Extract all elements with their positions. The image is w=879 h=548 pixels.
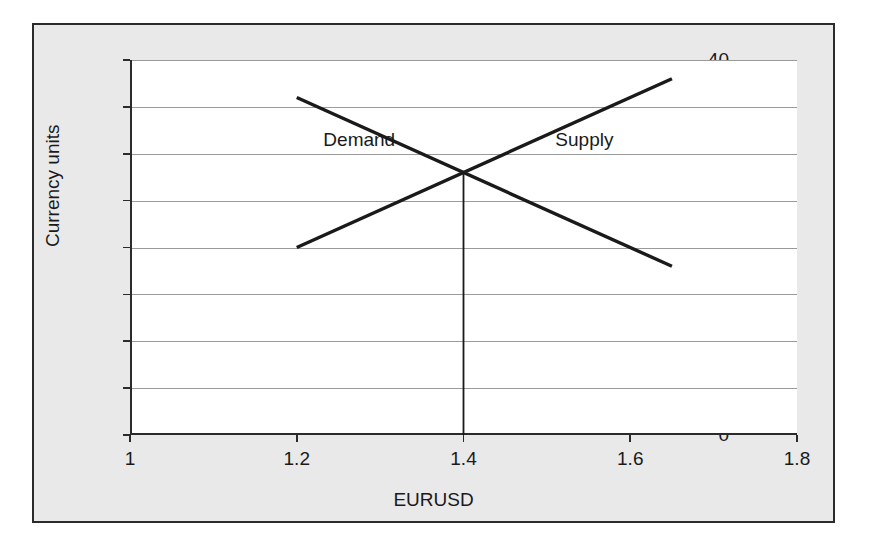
y-axis-tick (123, 153, 130, 155)
series-line-supply (297, 79, 672, 248)
x-axis-tick-label: 1.4 (450, 448, 476, 470)
figure-frame: Currency units EURUSD 0510152025303540 1… (32, 23, 835, 523)
x-axis-tick (129, 435, 131, 442)
series-lines (130, 60, 797, 435)
x-axis-tick-label: 1 (125, 448, 136, 470)
plot-area: DemandSupply (130, 60, 797, 435)
y-axis-tick (123, 340, 130, 342)
series-line-demand (297, 98, 672, 267)
series-label-supply: Supply (555, 129, 613, 151)
y-axis-tick (123, 106, 130, 108)
x-axis-title: EURUSD (34, 489, 833, 511)
y-axis-title: Currency units (42, 125, 64, 248)
x-axis-tick (296, 435, 298, 442)
chart-screenshot: Currency units EURUSD 0510152025303540 1… (0, 0, 879, 548)
y-axis-tick (123, 59, 130, 61)
y-axis-tick (123, 294, 130, 296)
y-axis-tick (123, 387, 130, 389)
y-axis-tick (123, 200, 130, 202)
x-axis-tick (629, 435, 631, 442)
y-axis-tick (123, 247, 130, 249)
x-axis-tick-label: 1.6 (617, 448, 643, 470)
x-axis-tick (796, 435, 798, 442)
series-label-demand: Demand (323, 129, 395, 151)
x-axis-tick (463, 435, 465, 442)
x-axis-tick-label: 1.2 (284, 448, 310, 470)
x-axis-tick-label: 1.8 (784, 448, 810, 470)
